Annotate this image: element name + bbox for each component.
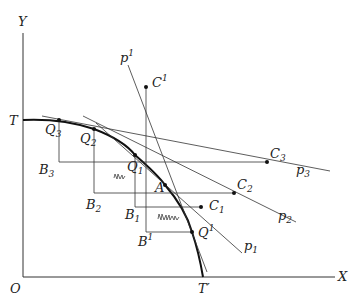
point-q1: [133, 153, 137, 157]
label-a: A: [154, 180, 164, 195]
label-c1: C1: [209, 198, 225, 215]
y-axis-label: Y: [18, 14, 28, 29]
label-psup1: p1: [120, 48, 134, 65]
transformation-curve: [23, 120, 203, 277]
label-qsup1: Q1: [198, 223, 214, 240]
handwritten-mark-2: [158, 214, 179, 220]
label-b3: B3: [38, 162, 55, 179]
point-q3: [57, 118, 61, 122]
label-p1: p1: [244, 238, 258, 255]
point-qsup1: [190, 230, 194, 234]
handwritten-mark-1: [114, 174, 125, 179]
point-c2: [232, 191, 236, 195]
production-possibility-diagram: Y X O T T′ Q3 Q2 Q1 A Q1 B3 B2 B1 B1 C3 …: [0, 0, 354, 298]
label-p2: p2: [278, 208, 292, 225]
point-csup1: [144, 85, 148, 89]
label-csup1: C1: [152, 73, 168, 90]
label-p3: p3: [296, 162, 310, 179]
point-q2: [92, 127, 96, 131]
label-b2: B2: [85, 197, 102, 214]
label-bsup1: B1: [137, 232, 153, 249]
point-c1: [199, 205, 203, 209]
label-b1: B1: [124, 207, 140, 224]
origin-label: O: [10, 281, 21, 296]
label-c2: C2: [237, 177, 253, 194]
curve-end-label: T′: [198, 281, 210, 296]
curve-start-label: T: [9, 113, 19, 128]
label-c3: C3: [270, 146, 286, 163]
point-c3: [265, 160, 269, 164]
box-csup1-bsup1-qsup1: [146, 87, 192, 232]
x-axis-label: X: [337, 269, 348, 284]
price-line-p1: [96, 123, 242, 253]
